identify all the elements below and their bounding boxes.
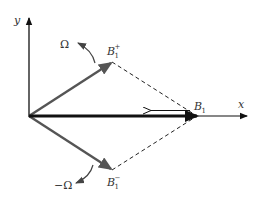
- svg-text:−: −: [115, 174, 121, 182]
- dashed-line-upper: [112, 62, 197, 116]
- svg-text:1: 1: [202, 107, 206, 115]
- vector-b1-plus: [29, 63, 111, 116]
- rotating-field-decomposition-diagram: y x Ω −Ω B 1 + B 1 − B 1: [0, 0, 259, 197]
- vector-b1-minus: [29, 116, 111, 169]
- b1-label: B 1: [193, 100, 206, 115]
- rotation-arrow-negative-icon: [76, 165, 93, 183]
- x-axis-label: x: [238, 98, 245, 111]
- b1-minus-label: B 1 −: [106, 174, 121, 191]
- svg-text:+: +: [115, 43, 121, 51]
- rotation-arrow-positive-icon: [78, 43, 95, 63]
- svg-text:1: 1: [115, 183, 119, 191]
- dashed-line-lower: [112, 116, 197, 170]
- omega-label: Ω: [60, 38, 69, 51]
- b1-plus-label: B 1 +: [106, 43, 121, 60]
- y-axis-label: y: [13, 14, 21, 27]
- svg-text:1: 1: [115, 52, 119, 60]
- minus-omega-label: −Ω: [54, 179, 72, 192]
